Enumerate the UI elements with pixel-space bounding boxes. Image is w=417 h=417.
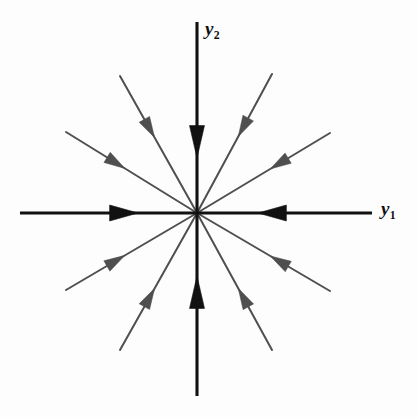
ray-wnw-line <box>66 132 197 213</box>
ray-ene-arrowhead <box>270 153 291 169</box>
arrow-right-axis-inward <box>258 205 286 221</box>
arrow-top-axis-inward <box>190 126 205 158</box>
ray-ene-group <box>197 133 330 213</box>
ray-wsw-line <box>66 213 197 290</box>
ray-ese-group <box>197 213 330 291</box>
y2-axis-label-base: y <box>205 18 213 39</box>
y1-axis-label: y1 <box>381 198 395 220</box>
y2-axis-label-subscript: 2 <box>214 29 220 42</box>
ray-ssw-arrowhead <box>139 288 155 309</box>
coordinate-axes <box>20 22 372 396</box>
arrow-bottom-axis-inward <box>190 276 205 308</box>
ray-nne-line <box>197 74 272 213</box>
ray-ene-line <box>197 133 330 213</box>
ray-nnw-group <box>120 76 197 213</box>
phase-portrait-figure: y2 y1 <box>0 0 417 417</box>
ray-sse-line <box>197 213 272 350</box>
ray-ssw-line <box>120 213 197 350</box>
ray-wnw-group <box>66 132 197 213</box>
ray-sse-arrowhead <box>238 288 253 309</box>
phase-portrait-canvas <box>0 0 417 417</box>
ray-ssw-group <box>120 213 197 350</box>
ray-nne-group <box>197 74 272 213</box>
y1-axis-label-subscript: 1 <box>390 209 396 222</box>
ray-wnw-arrowhead <box>104 152 125 168</box>
ray-nnw-arrowhead <box>139 116 155 137</box>
y2-axis-label: y2 <box>205 18 219 40</box>
ray-ese-arrowhead <box>270 256 291 272</box>
ray-wsw-group <box>66 213 197 290</box>
ray-wsw-arrowhead <box>104 255 125 271</box>
ray-nne-arrowhead <box>238 115 253 136</box>
arrow-left-axis-inward <box>110 205 138 221</box>
ray-ese-line <box>197 213 330 291</box>
ray-sse-group <box>197 213 272 350</box>
ray-nnw-line <box>120 76 197 213</box>
y1-axis-label-base: y <box>381 198 389 219</box>
